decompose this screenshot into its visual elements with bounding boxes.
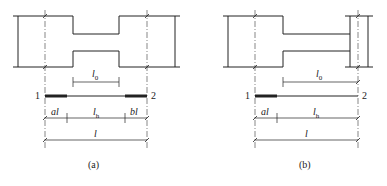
panel-b-dim-segments [255,113,358,123]
panel-b-al-label: al [261,107,269,117]
panel-b-caption: (b) [299,160,311,170]
panel-a-lh-label: lh [93,107,99,120]
panel-a-caption: (a) [88,160,99,170]
panel-b-l-label: l [305,129,308,139]
panel-a-structure [13,16,180,67]
panel-a-node-1: 1 [35,91,40,101]
panel-a-node-2: 2 [151,91,156,101]
dimension-ticks [43,14,360,142]
panel-b-structure [223,16,373,67]
panel-b-l0-label: l0 [316,69,322,82]
panel-a-al-label: al [51,107,59,117]
panel-a-l-label: l [94,129,97,139]
panel-a-bl-label: bl [130,107,138,117]
panel-b-lh-label: lh [313,107,319,120]
panel-b-node-2: 2 [362,91,367,101]
panel-b-node-1: 1 [245,91,250,101]
panel-a-l0-label: l0 [92,69,98,82]
diagram-canvas [0,0,387,186]
